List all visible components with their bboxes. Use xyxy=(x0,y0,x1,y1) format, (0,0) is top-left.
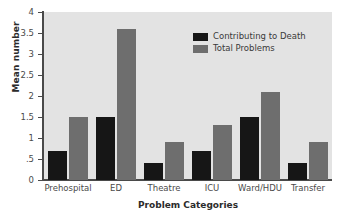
y-tick-mark xyxy=(38,117,43,118)
bar-prehospital-total xyxy=(69,117,89,180)
bar-ward-hdu-contributing xyxy=(240,117,260,180)
x-tick-label: Prehospital xyxy=(44,183,92,193)
legend-item: Total Problems xyxy=(193,43,306,54)
legend-swatch-icon xyxy=(193,45,208,53)
y-tick-label: 3.5 xyxy=(0,29,34,38)
x-tick-label: Ward/HDU xyxy=(236,183,284,193)
x-tick-label: Transfer xyxy=(284,183,332,193)
y-tick-label: .5 xyxy=(0,155,34,164)
x-axis-title: Problem Categories xyxy=(44,200,332,210)
y-tick-mark xyxy=(38,54,43,55)
legend-item: Contributing to Death xyxy=(193,31,306,42)
legend-swatch-icon xyxy=(193,33,208,41)
y-tick-mark xyxy=(38,96,43,97)
bar-chart-figure: Mean number 0.511.522.533.54 Prehospital… xyxy=(0,0,340,221)
y-tick-label: 3 xyxy=(0,50,34,59)
bar-transfer-contributing xyxy=(288,163,308,180)
y-tick-label: 2 xyxy=(0,92,34,101)
legend-label: Total Problems xyxy=(213,44,275,53)
bar-theatre-contributing xyxy=(144,163,164,180)
y-tick-mark xyxy=(38,180,43,181)
bar-prehospital-contributing xyxy=(48,151,68,180)
y-tick-label: 1 xyxy=(0,134,34,143)
bar-ed-contributing xyxy=(96,117,116,180)
chart-legend: Contributing to DeathTotal Problems xyxy=(193,31,306,55)
legend-label: Contributing to Death xyxy=(213,32,306,41)
x-tick-label: ED xyxy=(92,183,140,193)
bar-icu-total xyxy=(213,125,233,180)
y-tick-label: 4 xyxy=(0,8,34,17)
bar-ward-hdu-total xyxy=(261,92,281,180)
bar-transfer-total xyxy=(309,142,329,180)
x-tick-label: Theatre xyxy=(140,183,188,193)
bar-theatre-total xyxy=(165,142,185,180)
y-tick-label: 1.5 xyxy=(0,113,34,122)
y-tick-label: 0 xyxy=(0,176,34,185)
bar-ed-total xyxy=(117,29,137,180)
y-tick-label: 2.5 xyxy=(0,71,34,80)
y-tick-mark xyxy=(38,138,43,139)
y-tick-mark xyxy=(38,159,43,160)
bar-icu-contributing xyxy=(192,151,212,180)
y-tick-mark xyxy=(38,33,43,34)
y-tick-mark xyxy=(38,12,43,13)
x-tick-label: ICU xyxy=(188,183,236,193)
y-tick-mark xyxy=(38,75,43,76)
